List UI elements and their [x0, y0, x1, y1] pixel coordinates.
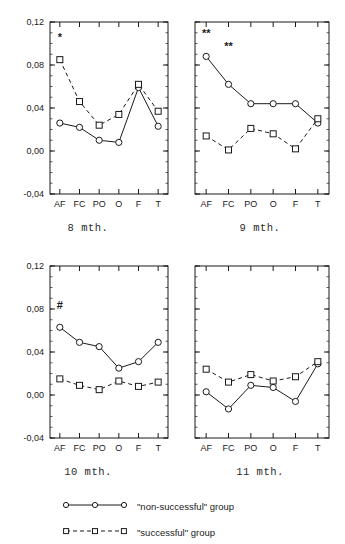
x-tick-label: O	[115, 443, 122, 453]
data-point-square-icon	[96, 387, 102, 393]
data-point-circle-icon	[116, 139, 122, 145]
legend-label-successful: "successful" group	[137, 527, 215, 538]
x-tick-label: O	[270, 199, 277, 209]
x-tick-label: O	[270, 443, 277, 453]
data-point-circle-icon	[203, 53, 209, 59]
series-line-successful	[60, 60, 158, 126]
series-line-non-successful	[206, 364, 318, 409]
x-tick-label: FC	[223, 199, 235, 209]
x-tick-label: AF	[200, 199, 212, 209]
series-line-successful	[60, 379, 158, 390]
panel-caption-10-mth: 10 mth.	[8, 466, 168, 478]
x-tick-label: F	[136, 443, 142, 453]
x-tick-label: F	[293, 199, 299, 209]
data-point-circle-icon	[248, 382, 254, 388]
data-point-square-icon	[293, 146, 299, 152]
x-tick-label: F	[136, 199, 142, 209]
x-tick-label: PO	[244, 443, 257, 453]
y-tick-label: -0,04	[23, 189, 44, 199]
data-point-circle-icon	[270, 384, 276, 390]
data-point-square-icon	[270, 131, 276, 137]
y-tick-label: 0,00	[26, 390, 44, 400]
data-point-square-icon	[226, 379, 232, 385]
legend-marker-circle-line	[62, 497, 128, 515]
data-point-circle-icon	[203, 389, 209, 395]
data-point-square-icon	[203, 366, 209, 372]
data-point-circle-icon	[270, 101, 276, 107]
x-tick-label: T	[155, 443, 161, 453]
x-tick-label: T	[315, 199, 321, 209]
data-point-circle-icon	[135, 359, 141, 365]
y-tick-label: 0,04	[26, 347, 44, 357]
series-line-non-successful	[206, 56, 318, 123]
data-point-square-icon	[293, 374, 299, 380]
data-point-square-icon	[248, 125, 254, 131]
significance-annotation: #	[57, 299, 63, 311]
plot-frame	[195, 22, 329, 194]
data-point-square-icon	[77, 99, 83, 105]
data-point-square-icon	[203, 133, 209, 139]
x-tick-label: PO	[93, 443, 106, 453]
data-point-circle-icon	[57, 324, 63, 330]
x-tick-label: T	[315, 443, 321, 453]
significance-annotation: *	[58, 31, 63, 43]
data-point-circle-icon	[248, 101, 254, 107]
data-point-square-icon	[116, 378, 122, 384]
data-point-square-icon	[77, 382, 83, 388]
legend-label-non-successful: "non-successful" group	[137, 501, 234, 512]
x-tick-label: PO	[244, 199, 257, 209]
data-point-square-icon	[155, 379, 161, 385]
x-tick-label: FC	[74, 199, 86, 209]
significance-annotation: **	[224, 40, 233, 52]
data-point-square-icon	[57, 376, 63, 382]
chart-panel-10-mth: 0,120,080,040,00-0,04AFFCPOOFT#	[8, 258, 176, 466]
plot-frame	[50, 22, 168, 194]
plot-area: 0,120,080,040,00-0,04AFFCPOOFT*	[8, 14, 176, 222]
data-point-square-icon	[315, 359, 321, 365]
data-point-square-icon	[270, 378, 276, 384]
x-tick-label: T	[155, 199, 161, 209]
plot-area: AFFCPOOFT	[185, 258, 337, 466]
plot-frame	[195, 266, 329, 438]
x-tick-label: PO	[93, 199, 106, 209]
x-tick-label: F	[293, 443, 299, 453]
plot-area: AFFCPOOFT****	[185, 14, 337, 222]
chart-legend: "non-successful" group "successful" grou…	[0, 484, 345, 544]
y-tick-label: 0,04	[26, 103, 44, 113]
y-tick-label: 0,00	[26, 146, 44, 156]
figure-root: 0,120,080,040,00-0,04AFFCPOOFT* AFFCPOOF…	[0, 0, 345, 544]
data-point-square-icon	[96, 122, 102, 128]
data-point-circle-icon	[76, 339, 82, 345]
series-line-non-successful	[60, 327, 158, 368]
plot-area: 0,120,080,040,00-0,04AFFCPOOFT#	[8, 258, 176, 466]
data-point-square-icon	[116, 111, 122, 117]
panel-caption-8-mth: 8 mth.	[8, 222, 168, 234]
plot-frame	[50, 266, 168, 438]
data-point-circle-icon	[155, 339, 161, 345]
data-point-square-icon	[136, 81, 142, 87]
data-point-square-icon	[57, 57, 63, 63]
panel-grid: 0,120,080,040,00-0,04AFFCPOOFT* AFFCPOOF…	[0, 0, 345, 480]
data-point-square-icon	[136, 383, 142, 389]
legend-entry-non-successful: "non-successful" group	[62, 498, 234, 514]
data-point-circle-icon	[96, 137, 102, 143]
legend-marker-square-dashed-line	[62, 523, 128, 541]
x-tick-label: FC	[74, 443, 86, 453]
panel-caption-9-mth: 9 mth.	[185, 222, 335, 234]
legend-entry-successful: "successful" group	[62, 524, 215, 540]
chart-panel-11-mth: AFFCPOOFT	[185, 258, 337, 466]
panel-caption-11-mth: 11 mth.	[185, 466, 335, 478]
data-point-square-icon	[248, 372, 254, 378]
data-point-square-icon	[226, 147, 232, 153]
significance-annotation: **	[202, 27, 211, 39]
y-tick-label: 0,12	[26, 261, 44, 271]
data-point-circle-icon	[76, 124, 82, 130]
y-tick-label: -0,04	[23, 433, 44, 443]
data-point-square-icon	[315, 116, 321, 122]
data-point-circle-icon	[225, 406, 231, 412]
data-point-circle-icon	[57, 120, 63, 126]
series-line-non-successful	[60, 88, 158, 143]
data-point-square-icon	[155, 108, 161, 114]
data-point-circle-icon	[116, 365, 122, 371]
y-tick-label: 0,08	[26, 60, 44, 70]
